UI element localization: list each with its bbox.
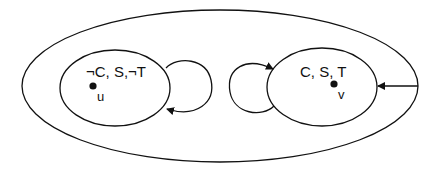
point-u-label: u (97, 89, 104, 104)
state-right-label: C, S, T (300, 63, 346, 80)
point-v-label: v (338, 87, 345, 102)
outer-region-ellipse (22, 10, 418, 162)
point-v-dot (330, 80, 337, 87)
state-left: ¬C, S,¬T u (60, 50, 170, 126)
state-right-ellipse (267, 48, 377, 126)
left-self-loop-arrow (166, 61, 212, 112)
state-right: C, S, T v (267, 48, 377, 126)
state-left-ellipse (60, 50, 170, 126)
diagram-canvas: ¬C, S,¬T u C, S, T v (0, 0, 434, 173)
state-left-label: ¬C, S,¬T (86, 63, 146, 80)
point-u-dot (89, 82, 96, 89)
